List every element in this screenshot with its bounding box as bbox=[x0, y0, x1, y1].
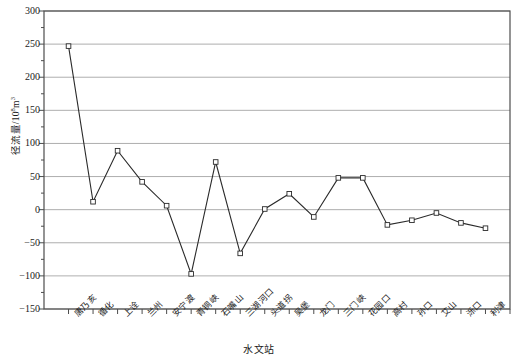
data-point-marker bbox=[336, 176, 341, 181]
data-point-marker bbox=[459, 221, 464, 226]
data-point-marker bbox=[189, 272, 194, 277]
data-point-marker bbox=[213, 160, 218, 165]
axis-ticks bbox=[39, 11, 510, 314]
y-tick-label: 150 bbox=[0, 105, 40, 115]
y-tick-label: 300 bbox=[0, 6, 40, 16]
data-point-marker bbox=[311, 215, 316, 220]
plot-frame-rect bbox=[44, 11, 510, 309]
data-point-marker bbox=[238, 251, 243, 256]
data-series-line bbox=[69, 46, 486, 274]
y-tick-label: 50 bbox=[0, 172, 40, 182]
data-point-marker bbox=[410, 218, 415, 223]
data-point-marker bbox=[385, 223, 390, 228]
data-point-marker bbox=[287, 191, 292, 196]
data-point-marker bbox=[115, 148, 120, 153]
plot-area bbox=[0, 0, 518, 362]
data-point-marker bbox=[434, 211, 439, 216]
series-polyline bbox=[69, 46, 486, 274]
data-point-marker bbox=[140, 180, 145, 185]
runoff-line-chart: 径流量/108m3 300250200150100500−50−100−150 … bbox=[0, 0, 518, 362]
data-point-marker bbox=[361, 176, 366, 181]
y-tick-label: −150 bbox=[0, 304, 40, 314]
data-point-marker bbox=[262, 207, 267, 212]
plot-frame bbox=[44, 11, 510, 309]
data-point-marker bbox=[91, 199, 96, 204]
y-axis-tick-labels: 300250200150100500−50−100−150 bbox=[0, 0, 40, 362]
data-point-marker bbox=[483, 226, 488, 231]
y-tick-label: 0 bbox=[0, 205, 40, 215]
data-point-marker bbox=[66, 44, 71, 49]
y-tick-label: 250 bbox=[0, 39, 40, 49]
y-tick-label: 200 bbox=[0, 72, 40, 82]
y-tick-label: −100 bbox=[0, 271, 40, 281]
data-point-marker bbox=[164, 203, 169, 208]
data-point-markers bbox=[66, 44, 488, 276]
gridlines bbox=[44, 11, 510, 309]
y-tick-label: −50 bbox=[0, 238, 40, 248]
y-tick-label: 100 bbox=[0, 138, 40, 148]
x-axis-title: 水文站 bbox=[0, 341, 518, 356]
